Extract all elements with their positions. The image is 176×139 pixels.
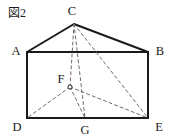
edge-C-G [74,24,85,118]
prism-diagram-svg [0,0,176,139]
vertex-markers-group [68,85,72,89]
edge-C-F [70,24,74,87]
dashed-edges-group [27,24,148,118]
vertex-label-d: D [12,121,21,134]
vertex-marker-f [68,85,72,89]
edge-F-E [70,87,148,118]
solid-edges-group [27,24,148,118]
vertex-label-b: B [156,45,164,58]
vertex-label-g: G [80,124,89,137]
figure-container: 図2 ABCDEFG [0,0,176,139]
edge-A-C [27,24,74,52]
edge-F-D [27,87,70,118]
vertex-label-f: F [58,73,65,86]
vertex-label-e: E [155,121,163,134]
vertex-label-c: C [68,5,76,18]
vertex-label-a: A [11,45,20,58]
